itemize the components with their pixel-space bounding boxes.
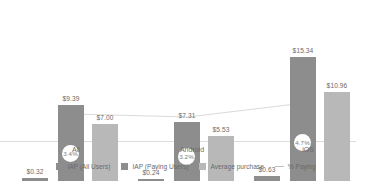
bar-average-purchase[interactable] — [208, 136, 234, 181]
bar-label-iap-paying-users: $7.31 — [167, 112, 207, 119]
legend-swatch-icon — [199, 163, 206, 170]
bar-group-android: $0.24 $7.31 $5.53 3.2% — [132, 48, 252, 181]
legend-label: IAP (All Users) — [67, 163, 110, 170]
bar-group-all: $0.32 $9.39 $7.00 3.4% — [16, 48, 136, 181]
bar-label-average-purchase: $5.53 — [201, 126, 241, 133]
legend-label: Average purchase — [210, 163, 263, 170]
legend-item-iap-paying-users[interactable]: IAP (Paying Users) — [121, 163, 188, 170]
bar-iap-all-users[interactable] — [254, 176, 280, 181]
bar-label-average-purchase: $7.00 — [85, 114, 125, 121]
chart-container: $0.32 $9.39 $7.00 3.4% All $0.24 $7.31 $… — [0, 0, 372, 181]
bar-label-average-purchase: $10.96 — [315, 82, 359, 89]
x-axis-label-all: All — [16, 146, 136, 153]
x-axis-label-android: Android — [132, 146, 252, 153]
chart-title — [0, 0, 372, 3]
legend-swatch-icon — [121, 163, 128, 170]
bar-iap-all-users[interactable] — [22, 178, 48, 181]
bar-group-ios: $0.63 $15.34 $10.96 4.7% — [248, 48, 368, 181]
legend-item-percent-paying[interactable]: % Paying — [275, 163, 316, 170]
legend-line-icon — [275, 166, 284, 167]
legend-label: IAP (Paying Users) — [132, 163, 188, 170]
chart-legend: IAP (All Users) IAP (Paying Users) Avera… — [0, 163, 372, 170]
bar-label-iap-all-users: $0.24 — [131, 169, 171, 176]
x-axis-label-ios: iOS — [248, 146, 368, 153]
legend-item-average-purchase[interactable]: Average purchase — [199, 163, 263, 170]
legend-label: % Paying — [288, 163, 316, 170]
legend-swatch-icon — [56, 163, 63, 170]
bar-label-iap-paying-users: $9.39 — [51, 95, 91, 102]
bar-iap-all-users[interactable] — [138, 179, 164, 181]
bar-label-iap-paying-users: $15.34 — [281, 47, 325, 54]
legend-item-iap-all-users[interactable]: IAP (All Users) — [56, 163, 110, 170]
